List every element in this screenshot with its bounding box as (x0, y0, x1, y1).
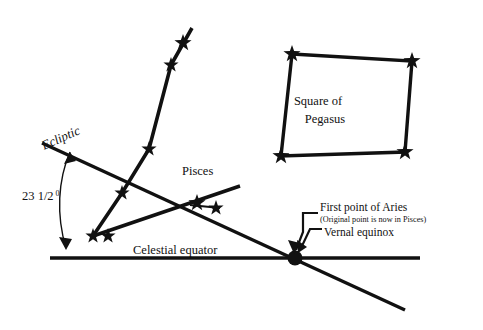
star-marker (141, 141, 156, 155)
angle-arc-curve (60, 152, 70, 248)
pisces-constellation (93, 28, 240, 236)
vernal-equinox-label: Vernal equinox (324, 226, 394, 239)
angle-value: 23 1/2 (22, 189, 54, 203)
first-point-of-aries-label: First point of Aries (320, 201, 408, 214)
inclination-angle-label: 23 1/20 (22, 189, 60, 203)
celestial-equator-label: Celestial equator (133, 243, 218, 257)
star-marker (272, 147, 289, 163)
vernal-equinox-point (288, 251, 303, 266)
pisces-label: Pisces (182, 164, 213, 178)
star-marker (188, 194, 205, 210)
pegasus-label-line1: Square of (294, 94, 343, 108)
degree-symbol: 0 (56, 189, 60, 198)
ecliptic-label: Ecliptic (38, 123, 82, 154)
annotation-leaders (288, 213, 322, 254)
star-marker (208, 200, 223, 214)
aries-note-label: (Original point is now in Pisces) (320, 215, 426, 224)
arc-arrowhead-lower-icon (59, 237, 72, 250)
equinox-arrowhead-icon (297, 240, 307, 253)
star-marker (396, 143, 413, 159)
celestial-sphere-diagram: Ecliptic 23 1/20 Pisces Celestial equato… (0, 0, 483, 330)
pegasus-label-line2: Pegasus (305, 112, 345, 126)
diagram-canvas: Ecliptic 23 1/20 Pisces Celestial equato… (0, 0, 483, 330)
inclination-angle-arc (59, 152, 76, 250)
